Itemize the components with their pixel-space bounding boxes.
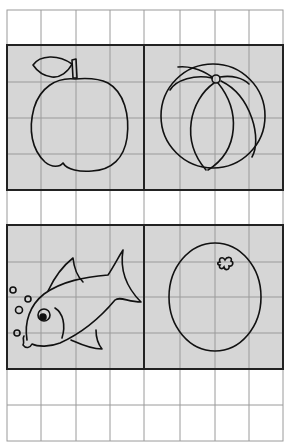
- fish-pupil-icon: [40, 314, 46, 320]
- drawing-worksheet: [0, 0, 287, 448]
